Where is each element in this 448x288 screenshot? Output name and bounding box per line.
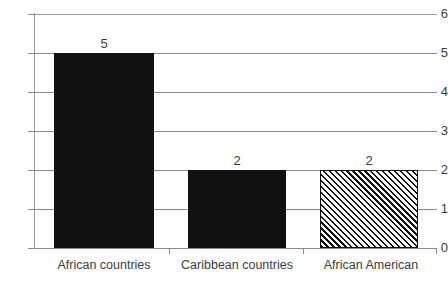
y-tick-label-6: 6	[428, 7, 448, 20]
category-label-african-american: African American	[304, 258, 438, 272]
y-tick-1	[28, 209, 35, 210]
bar-african-american	[320, 170, 418, 248]
x-tick-boundary-1	[169, 249, 170, 254]
category-label-caribbean-countries: Caribbean countries	[170, 258, 304, 272]
gridline-6	[35, 14, 437, 15]
y-tick-4	[28, 92, 35, 93]
x-tick-boundary-2	[303, 249, 304, 254]
y-tick-label-5: 5	[428, 46, 448, 59]
bar-chart: 6 5 4 3 2 1 0 5 2 2 African countries Ca…	[0, 0, 448, 288]
y-tick-2	[28, 170, 35, 171]
y-tick-3	[28, 131, 35, 132]
bar-caribbean-countries	[188, 170, 286, 248]
y-tick-label-1: 1	[428, 202, 448, 215]
x-tick-boundary-3	[436, 249, 437, 254]
x-axis-line	[34, 248, 437, 249]
data-label-african-american: 2	[320, 154, 418, 167]
y-tick-label-0: 0	[428, 241, 448, 254]
y-tick-0	[28, 248, 35, 249]
y-tick-label-3: 3	[428, 124, 448, 137]
y-tick-label-4: 4	[428, 85, 448, 98]
data-label-african-countries: 5	[54, 37, 154, 50]
y-tick-label-2: 2	[428, 163, 448, 176]
category-label-african-countries: African countries	[37, 258, 171, 272]
data-label-caribbean-countries: 2	[188, 154, 286, 167]
y-tick-5	[28, 53, 35, 54]
y-tick-6	[28, 14, 35, 15]
bar-african-countries	[54, 53, 154, 248]
